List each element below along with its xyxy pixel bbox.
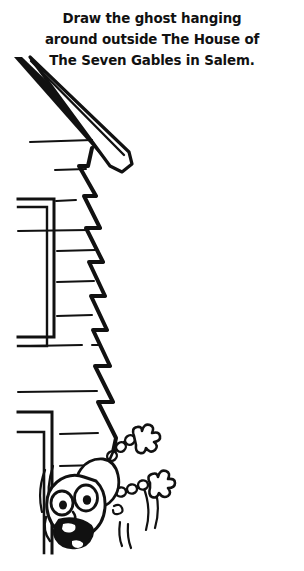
siding-line [56,200,76,201]
siding-line [57,315,92,316]
figure-swirl-detail [113,505,123,514]
figure-pupil-left [59,500,67,509]
siding-line [57,281,94,282]
figure-mouth-highlight [62,523,76,532]
figure-pupil-right [83,495,91,505]
siding-lines [18,140,100,466]
siding-line [57,250,95,251]
window-frame-upper [18,199,54,337]
siding-line [60,433,98,434]
figure-hand-upper [133,425,160,454]
illustration-house-with-hanging-ghost-character [0,0,304,571]
siding-line [55,169,86,170]
worksheet-page: Draw the ghost hangingaround outside The… [0,0,304,571]
window-frame-upper-inner [18,207,47,346]
figure-hand-lower [148,471,175,498]
gable-zigzag-edge [79,148,116,452]
cartoon-figure [40,425,175,548]
siding-line [18,391,97,392]
siding-line [30,140,92,142]
